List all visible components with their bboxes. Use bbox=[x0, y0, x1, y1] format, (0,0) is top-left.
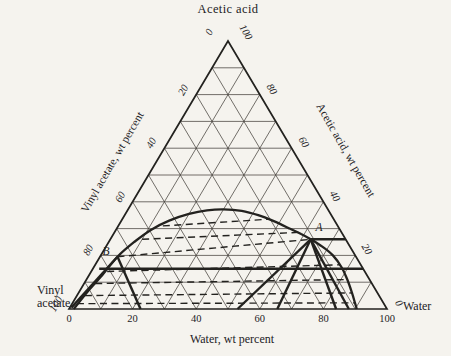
bottom-axis-tick-label: 60 bbox=[255, 313, 266, 324]
top-component-label: Acetic acid bbox=[198, 2, 259, 17]
bottom-axis-tick-label: 80 bbox=[318, 313, 329, 324]
bottom-axis-tick-label: 100 bbox=[379, 313, 395, 324]
bottom-axis-tick-label: 0 bbox=[66, 313, 71, 324]
bottom-axis-tick-label: 20 bbox=[127, 313, 138, 324]
point-label-b: B bbox=[102, 245, 109, 257]
point-label-a: A bbox=[315, 221, 322, 233]
bottom-axis-title: Water, wt percent bbox=[190, 332, 274, 347]
corner-label-water: Water bbox=[403, 299, 431, 314]
ternary-diagram-figure: Acetic acid Vinyl acetate, wt percent Ac… bbox=[0, 0, 451, 356]
bottom-axis-tick-label: 40 bbox=[191, 313, 202, 324]
